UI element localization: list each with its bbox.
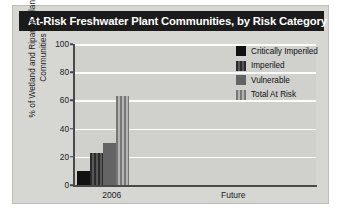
bar [77, 171, 90, 185]
y-axis-tick-mark [70, 184, 74, 186]
legend-swatch-icon [236, 90, 246, 100]
y-axis-line [73, 44, 75, 186]
legend-swatch-icon [236, 61, 246, 71]
y-axis-tick-mark [70, 43, 74, 45]
y-axis-tick-label: 100 [55, 39, 69, 49]
legend-swatch-icon [236, 46, 246, 56]
legend-item-label: Critically Imperiled [251, 47, 318, 56]
chart-legend: Critically ImperiledImperiledVulnerableT… [236, 44, 340, 102]
x-axis-tick-label: 2006 [102, 190, 121, 200]
legend-item: Critically Imperiled [236, 44, 340, 59]
chart-figure: At-Risk Freshwater Plant Communities, by… [0, 0, 341, 217]
legend-item: Imperiled [236, 59, 340, 74]
y-axis-tick-labels: 020406080100 [46, 44, 69, 185]
bar [90, 153, 103, 185]
legend-item: Vulnerable [236, 73, 340, 88]
legend-item-label: Vulnerable [251, 76, 290, 85]
chart-title-bar: At-Risk Freshwater Plant Communities, by… [19, 11, 324, 31]
y-axis-tick-mark [70, 156, 74, 158]
legend-swatch-icon [236, 75, 246, 85]
legend-item: Total At Risk [236, 88, 340, 103]
bar [116, 96, 129, 185]
legend-item-label: Imperiled [251, 61, 285, 70]
y-axis-tick-label: 0 [64, 180, 69, 190]
y-axis-tick-label: 80 [60, 67, 69, 77]
y-axis-tick-mark [70, 71, 74, 73]
y-axis-tick-label: 40 [60, 124, 69, 134]
legend-item-label: Total At Risk [251, 90, 296, 99]
y-axis-tick-label: 20 [60, 152, 69, 162]
y-axis-tick-mark [70, 128, 74, 130]
y-axis-title: % of Wetland and Riparian Plant Communit… [27, 0, 48, 125]
bar [103, 143, 116, 185]
x-axis-tick-label: Future [221, 190, 246, 200]
gridline [73, 129, 316, 131]
page-title: At-Risk Freshwater Plant Communities, by… [28, 15, 327, 27]
y-axis-tick-mark [70, 100, 74, 102]
y-axis-tick-label: 60 [60, 95, 69, 105]
x-axis-line [73, 185, 317, 187]
